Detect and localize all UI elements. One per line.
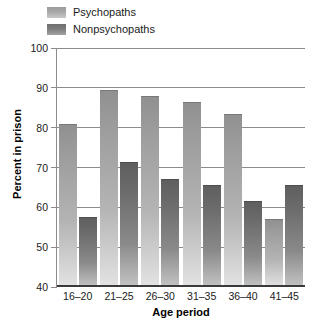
x-tick-label: 26–30 (146, 290, 175, 302)
x-tick-label: 16–20 (63, 290, 92, 302)
legend-item-psychopaths: Psychopaths (47, 4, 227, 20)
bar-top-edge (161, 179, 179, 180)
y-tick-label: 80 (36, 122, 48, 134)
y-axis-title: Percent in prison (11, 94, 23, 214)
bars-layer (57, 48, 305, 287)
bar-top-edge (203, 185, 221, 186)
y-tick-label: 100 (30, 42, 48, 54)
y-tick-label: 50 (36, 241, 48, 253)
bar-top-edge (265, 219, 283, 220)
y-tick-mark (51, 287, 57, 288)
bar-top-edge (59, 124, 77, 125)
bar-top-edge (120, 162, 138, 163)
legend-swatch-nonpsychopaths-icon (47, 24, 66, 35)
bar-top-edge (100, 90, 118, 91)
chart-legend: Psychopaths Nonpsychopaths (47, 4, 227, 38)
x-tick-label: 21–25 (104, 290, 133, 302)
x-axis-ticks: 16–2021–2526–3031–3536–4041–45 (57, 290, 305, 306)
x-tick-label: 31–35 (187, 290, 216, 302)
bar-nonpsychopaths-21–25 (120, 162, 138, 287)
bar-psychopaths-31–35 (183, 102, 201, 287)
bar-nonpsychopaths-26–30 (161, 179, 179, 287)
bar-psychopaths-26–30 (141, 96, 159, 287)
x-axis-title: Age period (57, 306, 305, 318)
legend-item-nonpsychopaths: Nonpsychopaths (47, 21, 227, 37)
y-tick-mark (51, 247, 57, 248)
y-tick-mark (51, 207, 57, 208)
bar-top-edge (183, 102, 201, 103)
bar-top-edge (79, 217, 97, 218)
y-tick-label: 90 (36, 82, 48, 94)
y-tick-label: 40 (36, 281, 48, 293)
bar-nonpsychopaths-36–40 (244, 201, 262, 287)
bar-psychopaths-16–20 (59, 124, 77, 287)
bar-nonpsychopaths-31–35 (203, 185, 221, 287)
y-tick-mark (51, 167, 57, 168)
bar-top-edge (141, 96, 159, 97)
bar-nonpsychopaths-16–20 (79, 217, 97, 287)
bar-psychopaths-36–40 (224, 114, 242, 287)
y-tick-mark (51, 48, 57, 49)
bar-top-edge (244, 201, 262, 202)
bar-chart: Psychopaths Nonpsychopaths 4050607080901… (0, 0, 314, 322)
legend-label-nonpsychopaths: Nonpsychopaths (73, 23, 155, 35)
legend-label-psychopaths: Psychopaths (73, 6, 136, 18)
plot-area: 405060708090100 (57, 48, 305, 287)
bar-psychopaths-41–45 (265, 219, 283, 287)
bar-top-edge (224, 114, 242, 115)
y-tick-label: 70 (36, 162, 48, 174)
y-tick-label: 60 (36, 201, 48, 213)
legend-swatch-psychopaths-icon (47, 7, 66, 18)
x-tick-label: 36–40 (228, 290, 257, 302)
bar-nonpsychopaths-41–45 (285, 185, 303, 287)
bar-psychopaths-21–25 (100, 90, 118, 287)
y-tick-mark (51, 127, 57, 128)
x-axis-line (57, 285, 305, 287)
y-tick-mark (51, 87, 57, 88)
bar-top-edge (285, 185, 303, 186)
x-tick-label: 41–45 (270, 290, 299, 302)
